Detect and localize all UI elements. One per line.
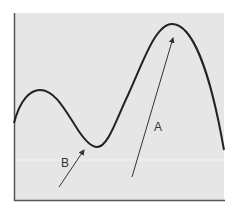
label-a: A [154, 120, 162, 134]
label-b: B [61, 156, 69, 170]
diagram [0, 0, 235, 214]
